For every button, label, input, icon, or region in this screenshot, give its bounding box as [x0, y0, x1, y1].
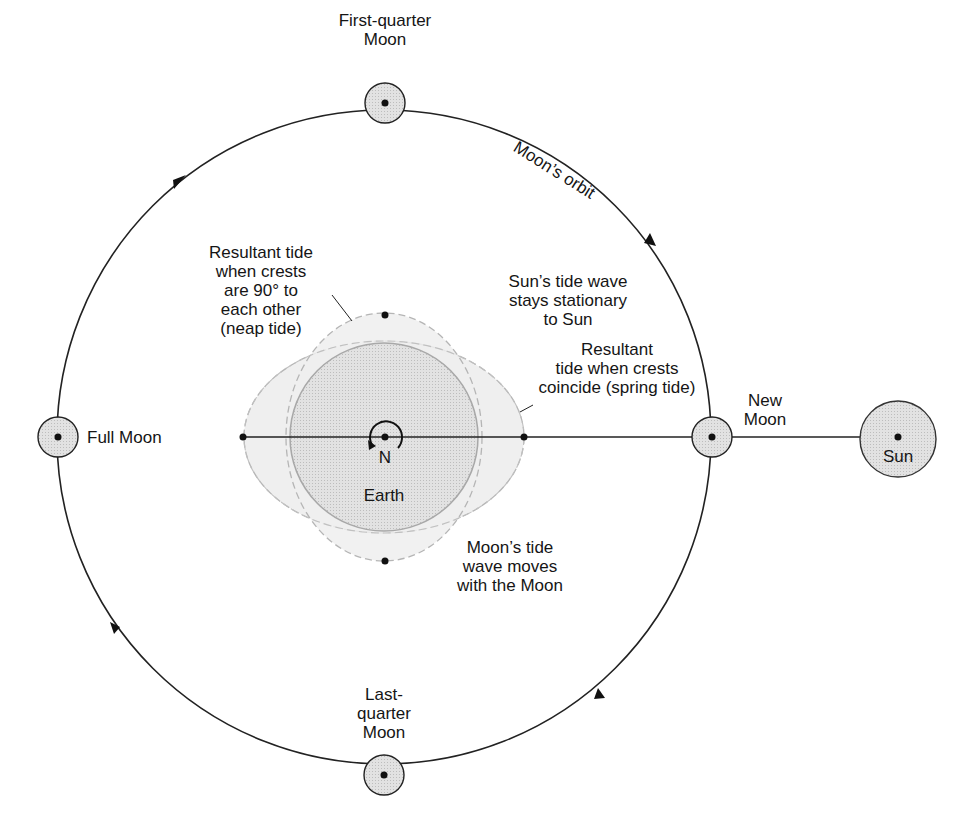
orbit-arrow-lower-right-icon: [594, 688, 605, 699]
neap-crest-bottom: [382, 558, 389, 565]
label-sun: Sun: [868, 447, 928, 466]
neap-pointer: [332, 295, 352, 321]
last-quarter-moon: [364, 755, 404, 795]
tide-diagram: [0, 0, 966, 814]
spring-crest-right: [521, 434, 528, 441]
orbit-arrow-upper-right-icon: [644, 233, 656, 246]
label-sun-tide: Sun’s tide wave stays stationary to Sun: [498, 272, 638, 329]
orbit-arrow-upper-left-icon: [173, 175, 186, 189]
label-north: N: [375, 448, 395, 467]
label-moon-tide: Moon’s tide wave moves with the Moon: [438, 538, 582, 595]
label-last-quarter-moon: Last- quarter Moon: [344, 685, 424, 742]
label-full-moon: Full Moon: [87, 428, 162, 447]
spring-crest-left: [240, 434, 247, 441]
label-new-moon: New Moon: [722, 391, 808, 429]
label-spring-tide: Resultant tide when crests coincide (spr…: [532, 340, 702, 397]
neap-crest-top: [382, 312, 389, 319]
label-first-quarter-moon: First-quarter Moon: [325, 11, 445, 49]
spring-pointer: [520, 405, 533, 412]
full-moon: [38, 417, 78, 457]
label-neap-tide: Resultant tide when crests are 90° to ea…: [196, 243, 326, 338]
first-quarter-moon: [365, 83, 405, 123]
earth-center: [382, 434, 389, 441]
label-earth: Earth: [344, 486, 424, 505]
